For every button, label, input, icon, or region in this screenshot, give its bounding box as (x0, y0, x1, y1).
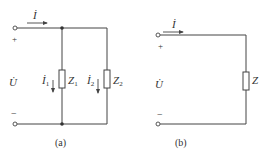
terminal-top-a (13, 26, 17, 30)
impedance-z2 (104, 70, 110, 88)
label-plus-b: + (158, 41, 163, 51)
label-z2: Z2 (113, 74, 123, 88)
label-voltage-a: U̇ (9, 76, 18, 88)
label-i1: İ1 (41, 74, 50, 88)
caption-b: (b) (175, 137, 187, 149)
caption-a: (a) (55, 137, 66, 149)
label-current-total-a: İ (32, 9, 38, 21)
label-minus-b: − (157, 109, 163, 120)
label-current-total-b: İ (171, 18, 177, 30)
label-minus-a: − (11, 108, 17, 119)
label-voltage-b: U̇ (155, 78, 164, 90)
label-z: Z (252, 74, 259, 86)
terminal-bottom-b (156, 122, 160, 126)
junction-dot-bottom (60, 122, 64, 126)
terminal-bottom-a (13, 122, 17, 126)
terminal-top-b (156, 33, 160, 37)
figure-b: İ + U̇ − Z (b) (155, 18, 259, 149)
impedance-z (243, 72, 249, 90)
figure-a: İ + U̇ − İ1 Z1 İ2 Z2 (a) (9, 9, 123, 149)
junction-dot-top (60, 26, 64, 30)
impedance-z1 (59, 70, 65, 88)
label-i2: İ2 (86, 74, 95, 88)
circuit-diagram: İ + U̇ − İ1 Z1 İ2 Z2 (a) İ + U̇ − Z (b) (0, 0, 266, 158)
label-z1: Z1 (68, 74, 78, 88)
label-plus-a: + (12, 34, 17, 44)
